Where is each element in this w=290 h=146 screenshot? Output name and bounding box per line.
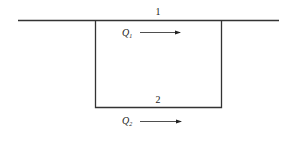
svg-text:Q1: Q1 xyxy=(122,27,132,39)
pipe-diagram: 1 2 Q1 Q2 xyxy=(0,0,290,146)
pipe-2-label: 2 xyxy=(156,94,161,105)
flow-1-subscript: 1 xyxy=(129,33,132,39)
flow-2-subscript: 2 xyxy=(129,121,132,127)
svg-text:Q2: Q2 xyxy=(122,115,132,127)
pipe-1-label: 1 xyxy=(156,6,161,17)
flow-2-annotation: Q2 xyxy=(122,115,181,127)
flow-1-annotation: Q1 xyxy=(122,27,180,39)
